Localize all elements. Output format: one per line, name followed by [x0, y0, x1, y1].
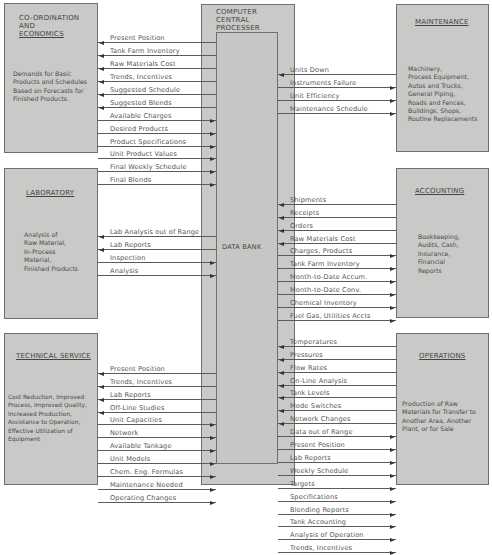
flow-label: Lab Analysis out of Range: [110, 228, 199, 236]
flow-label: Final Blends: [110, 176, 151, 184]
operations-title: OPERATIONS: [419, 352, 466, 360]
flow-label: Final Weekly Schedule: [110, 163, 187, 171]
flow-line: Unit Capacities: [98, 413, 216, 426]
flow-line: Tank Accounting: [278, 515, 396, 528]
flow-label: Targets: [290, 480, 315, 488]
flow-line: Off-Line Studies: [98, 400, 216, 413]
flow-label: Suggested Schedule: [110, 86, 180, 94]
flow-line: Lab Reports: [98, 237, 216, 250]
flow-line: Trends, Incentives: [98, 374, 216, 387]
flow-label: Unit Models: [110, 455, 150, 463]
flow-label: Chem. Eng. Formulas: [110, 468, 183, 476]
flow-line: Unit Product Values: [98, 147, 216, 160]
flow-label: Trends, Incentives: [110, 378, 172, 386]
flow-label: Present Position: [110, 365, 165, 373]
flow-label: Tank Levels: [290, 389, 330, 397]
arrow-right-icon: [390, 319, 395, 323]
processor-title-line-2: CENTRAL: [216, 16, 260, 24]
flow-line: Available Tankage: [98, 438, 216, 451]
flow-label: Receipts: [290, 209, 319, 217]
data-bank: DATA BANK: [216, 32, 278, 464]
flow-line: Raw Materials Cost: [98, 56, 216, 69]
flows-accounting: ShipmentsReceiptsOrdersRaw Materials Cos…: [278, 192, 396, 321]
flow-label: Tank Farm Inventory: [290, 260, 360, 268]
flow-line: Tank Farm Inventory: [98, 43, 216, 56]
processor-title: COMPUTER CENTRAL PROCESSER: [216, 8, 260, 32]
accounting-description: Bookkeeping, Audits, Cash, Insurance, Fi…: [418, 233, 488, 275]
flow-line: Desired Products: [98, 121, 216, 134]
flow-label: Inspection: [110, 254, 146, 262]
flow-label: Pressures: [290, 351, 323, 359]
flow-line: Unit Efficiency: [278, 88, 396, 101]
technical-service-title: TECHNICAL SERVICE: [16, 352, 91, 360]
flow-label: Raw Materials Cost: [110, 60, 176, 68]
flow-line: Suggested Schedule: [98, 82, 216, 95]
flow-label: Data out of Range: [290, 428, 353, 436]
flow-label: Suggested Blends: [110, 99, 172, 107]
flow-line: Month-to-Date Accum.: [278, 269, 396, 282]
maintenance-title: MAINTENANCE: [415, 18, 469, 26]
coordination-title-line-2: AND: [19, 22, 79, 30]
flow-label: Month-to-Date Accum.: [290, 273, 367, 281]
flow-label: Blending Reports: [290, 506, 349, 514]
flow-label: Weekly Schedule: [290, 467, 348, 475]
flow-label: Chemical Inventory: [290, 299, 357, 307]
flow-line: Trends, Incentives: [98, 69, 216, 82]
flow-label: Maintenance Needed: [110, 481, 183, 489]
flow-line: Tank Levels: [278, 386, 396, 399]
flow-line: Final Weekly Schedule: [98, 160, 216, 173]
flow-label: Lab Reports: [110, 241, 151, 249]
flow-label: Tank Farm Inventory: [110, 47, 180, 55]
flow-label: Present Position: [110, 34, 165, 42]
flow-label: Raw Materials Cost: [290, 235, 356, 243]
arrow-right-icon: [210, 183, 215, 187]
processor-title-line-3: PROCESSER: [216, 24, 260, 32]
coordination-title: CO-ORDINATION AND ECONOMICS: [19, 14, 79, 38]
flow-line: Fuel Gas, Utilities Accts: [278, 308, 396, 321]
processor-title-line-1: COMPUTER: [216, 8, 260, 16]
flow-line: Analysis: [98, 263, 216, 276]
flow-line: Unit Models: [98, 451, 216, 464]
flow-label: Lab Reports: [290, 454, 331, 462]
accounting-box: ACCOUNTING Bookkeeping, Audits, Cash, In…: [396, 168, 489, 318]
flow-label: Flow Rates: [290, 364, 327, 372]
operations-description: Production of Raw Materials for Transfer…: [402, 400, 490, 434]
flow-line: Charges, Products: [278, 244, 396, 257]
flow-line: Orders: [278, 218, 396, 231]
flow-line: Present Position: [98, 31, 216, 44]
flow-line: Present Position: [98, 361, 216, 374]
flow-line: Lab Analysis out of Range: [98, 224, 216, 237]
flow-label: Available Charges: [110, 112, 172, 120]
flow-label: Month-to-Date Conv.: [290, 286, 361, 294]
flow-line: Chem. Eng. Formulas: [98, 464, 216, 477]
flow-label: Present Position: [290, 441, 345, 449]
technical-service-description: Cost Reduction, Improved Process, Improv…: [8, 393, 100, 443]
flows-technical-service: Present PositionTrends, IncentivesLab Re…: [98, 361, 216, 503]
flow-line: Data out of Range: [278, 424, 396, 437]
flow-line: Shipments: [278, 192, 396, 205]
flow-line: Network: [98, 426, 216, 439]
technical-service-box: TECHNICAL SERVICE Cost Reduction, Improv…: [4, 333, 98, 485]
flow-line: Flow Rates: [278, 360, 396, 373]
flow-line: Specifications: [278, 489, 396, 502]
flow-label: Product Specifications: [110, 138, 186, 146]
coordination-title-line-3: ECONOMICS: [19, 30, 79, 38]
flow-label: Unit Efficiency: [290, 92, 340, 100]
flow-label: Analysis: [110, 267, 138, 275]
flow-label: Specifications: [290, 493, 338, 501]
flow-line: Maintenance Schedule: [278, 101, 396, 114]
flow-label: Analysis of Operation: [290, 531, 364, 539]
flow-label: Network Changes: [290, 415, 351, 423]
flows-maintenance: Units DownInstruments FailureUnit Effici…: [278, 62, 396, 114]
flow-label: Off-Line Studies: [110, 404, 165, 412]
accounting-title: ACCOUNTING: [415, 187, 464, 195]
flow-label: On-Line Analysis: [290, 377, 347, 385]
flow-label: Network: [110, 429, 139, 437]
flow-line: Final Blends: [98, 172, 216, 185]
data-bank-label: DATA BANK: [222, 243, 262, 251]
laboratory-box: LABORATORY Analysis of Raw Material, In-…: [4, 168, 98, 319]
flow-label: Fuel Gas, Utilities Accts: [290, 312, 371, 320]
flow-line: Targets: [278, 476, 396, 489]
flow-line: Operating Changes: [98, 490, 216, 503]
flow-label: Unit Capacities: [110, 416, 162, 424]
